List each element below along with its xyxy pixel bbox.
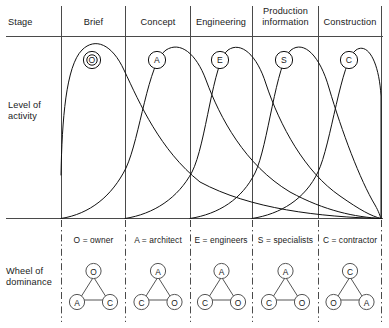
wheel-brief-left-letter: A — [68, 298, 87, 309]
row-label-wheel-line2: dominance — [6, 277, 52, 288]
activity-curves — [61, 44, 381, 219]
stage-header-concept: Concept — [125, 17, 191, 28]
stage-header-production-information-line1: Production — [252, 6, 319, 17]
wheel-construction-right-letter: A — [357, 298, 376, 309]
wheel-brief-right-letter: C — [101, 298, 120, 309]
stage-badge-letter-concept: A — [147, 55, 167, 66]
wheel-construction-top-letter: C — [341, 267, 360, 278]
legend-contractor: C = contractor — [318, 235, 382, 246]
wheel-concept-top-letter: A — [149, 267, 168, 278]
wheel-engineering-top-letter: A — [212, 267, 231, 278]
activity-curve-architect — [61, 47, 381, 218]
row-label-stage: Stage — [8, 17, 33, 28]
legend-architect: A = architect — [125, 235, 191, 246]
wheel-production-information-top-letter: A — [276, 267, 295, 278]
legend-owner: O = owner — [61, 235, 126, 246]
stage-header-brief: Brief — [61, 17, 126, 28]
wheel-concept-left-letter: C — [132, 298, 151, 309]
wheel-concept-right-letter: O — [165, 298, 184, 309]
activity-dominance-figure: Stage Brief Concept Engineering Producti… — [0, 0, 389, 328]
wheel-construction-left-letter: O — [324, 298, 343, 309]
stage-header-production-information-line2: information — [252, 17, 319, 28]
wheel-production-information-right-letter: O — [293, 298, 312, 309]
figure-canvas — [0, 0, 389, 328]
stage-header-engineering: Engineering — [189, 17, 253, 28]
wheel-brief-top-letter: O — [84, 267, 103, 278]
stage-badge-letter-construction: C — [339, 55, 359, 66]
stage-badge-letter-engineering: E — [210, 55, 230, 66]
activity-curve-specialists — [190, 47, 381, 218]
legend-engineers: E = engineers — [189, 235, 253, 246]
row-label-level-of-activity-line1: Level of — [8, 100, 41, 111]
row-label-level-of-activity-line2: activity — [8, 111, 37, 122]
row-label-wheel-line1: Wheel of — [6, 266, 43, 277]
wheel-engineering-right-letter: O — [229, 298, 248, 309]
stage-badge-letter-brief: O — [82, 55, 102, 66]
stage-header-construction: Construction — [318, 17, 382, 28]
stage-badge-letter-production-information: S — [274, 55, 294, 66]
activity-curve-contractor — [252, 48, 381, 218]
activity-curve-owner — [61, 44, 381, 219]
legend-specialists: S = specialists — [252, 235, 319, 246]
wheel-engineering-left-letter: C — [196, 298, 215, 309]
wheel-production-information-left-letter: C — [260, 298, 279, 309]
column-dividers-upper — [62, 6, 382, 219]
